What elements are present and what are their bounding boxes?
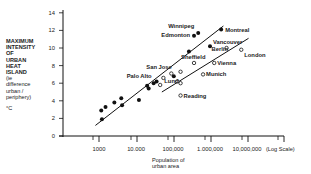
y-tick-label: 2 (52, 115, 55, 121)
point-label: Sheffield (181, 54, 206, 60)
point-label: San Jose (146, 64, 172, 70)
filled-data-point (137, 98, 141, 102)
open-data-point (158, 83, 161, 86)
open-data-point (192, 61, 195, 64)
filled-data-point (100, 117, 104, 121)
filled-data-point (219, 28, 223, 32)
open-data-point (179, 82, 182, 85)
point-label: Montreal (225, 27, 250, 33)
x-tick-label: 10.000 (127, 146, 145, 152)
filled-data-point (147, 86, 151, 90)
filled-data-point (104, 105, 108, 109)
filled-data-point (155, 79, 159, 83)
filled-data-point (112, 101, 116, 105)
point-label: London (244, 52, 266, 58)
log-scale-note: (Log Scale) (266, 146, 295, 152)
filled-data-point (120, 103, 124, 107)
y-tick-label: 4 (52, 98, 56, 104)
open-data-point (179, 70, 182, 73)
y-tick-label: 8 (52, 63, 55, 69)
scatter-plot: 02468101214100010.000100,0001.000,00010,… (0, 0, 311, 174)
point-label: Palo Alto (127, 73, 152, 79)
open-data-point (179, 94, 182, 97)
point-label: Vancouver (213, 39, 243, 45)
point-label: Lund (164, 78, 179, 84)
point-label: Vienna (217, 60, 237, 66)
filled-data-point (119, 96, 123, 100)
point-label: Winnipeg (168, 23, 194, 29)
point-label: Munich (206, 71, 227, 77)
y-tick-label: 10 (49, 45, 55, 51)
filled-data-point (192, 34, 196, 38)
x-tick-label: 100,000 (163, 146, 184, 152)
open-data-point (201, 73, 204, 76)
filled-data-point (196, 31, 200, 35)
y-tick-label: 14 (49, 10, 56, 16)
filled-data-point (99, 108, 103, 112)
y-tick-label: 12 (49, 27, 55, 33)
point-label: Reading (184, 93, 207, 99)
x-tick-label: 1.000,000 (197, 146, 223, 152)
open-data-point (213, 61, 216, 64)
open-data-point (170, 72, 173, 75)
x-tick-label: 10,000,000 (232, 146, 261, 152)
point-label: Edmonton (161, 32, 190, 38)
y-tick-label: 0 (52, 133, 55, 139)
point-label: Berlin (212, 46, 229, 52)
filled-data-point (187, 50, 191, 54)
y-tick-label: 6 (52, 80, 55, 86)
x-tick-label: 1000 (93, 146, 106, 152)
open-data-point (240, 48, 243, 51)
